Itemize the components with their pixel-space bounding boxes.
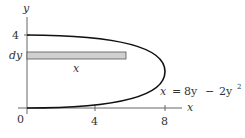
y-axis-label: y — [22, 2, 30, 15]
svg-text:−: − — [205, 85, 214, 98]
y-tick-label-4: 4 — [12, 29, 19, 42]
dy-label: dy — [9, 49, 23, 62]
equation-label: x = 8y − 2y 2 — [160, 83, 241, 98]
strip-x-label: x — [73, 62, 80, 75]
x-tick-label-4: 4 — [91, 115, 98, 128]
x-tick-label-8: 8 — [161, 115, 168, 128]
origin-label: 0 — [17, 113, 24, 126]
dy-strip — [27, 52, 126, 59]
x-axis-label: x — [187, 101, 194, 114]
parabola-curve — [27, 35, 165, 108]
svg-text:2y: 2y — [219, 85, 233, 98]
svg-text:2: 2 — [237, 83, 241, 91]
svg-text:x: x — [160, 85, 167, 98]
svg-text:8y: 8y — [184, 85, 198, 98]
svg-text:=: = — [172, 85, 181, 98]
diagram-canvas: y x 4 0 4 8 dy x x = 8y − 2y 2 — [0, 0, 245, 138]
